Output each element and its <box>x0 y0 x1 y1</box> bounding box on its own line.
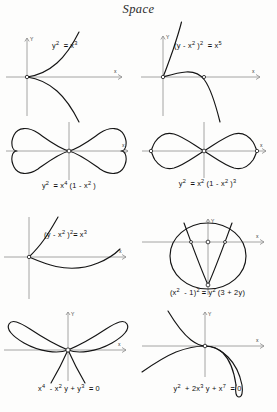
plot-cuspidal-cubic: Y x <box>0 20 138 122</box>
curve-right-tail <box>68 350 85 383</box>
curve-right-petal <box>68 322 128 352</box>
equation-figure-2: (y - x2 )2 = x5 <box>174 40 222 50</box>
curve-lower-branch <box>29 249 120 268</box>
axes: Y x <box>4 311 126 381</box>
plot-figure-eight-quartic: x <box>0 122 138 217</box>
x-axis-label: x <box>114 68 117 74</box>
curve-left-tail <box>51 350 68 383</box>
axes: Y x <box>142 311 264 377</box>
y-axis-label: Y <box>166 34 170 40</box>
equation-figure-7: x4 - x2 y + y3 = 0 <box>0 383 138 393</box>
equation-figure-6: (x2 - 1)2 = y2 (3 + 2y) <box>138 287 277 297</box>
origin-point-icon <box>203 344 207 348</box>
curve-branch-b <box>142 346 236 385</box>
figure-circle-with-node: Y x (x2 - 1)2 = y2 (3 + 2y) <box>138 217 277 309</box>
y-axis-label: Y <box>71 311 75 317</box>
curve-right-arc <box>208 223 232 285</box>
x-intercept-point-icon <box>202 75 205 78</box>
plot-double-loop-sextic: x <box>138 122 277 217</box>
triple-point-icon <box>66 348 70 352</box>
curve-upper-branch <box>27 32 79 77</box>
figure-figure-eight-quartic: x y2 = x4 (1 - x2 ) <box>0 122 138 217</box>
equation-figure-8: y2 + 2x3 y + x7 = 0 <box>138 383 277 393</box>
equation-figure-1: y2 = x3 <box>52 40 77 50</box>
equation-figure-4: y2 = x2 (1 - x2 )3 <box>138 178 277 188</box>
curve-lower-branch <box>27 77 79 122</box>
x-axis-label: x <box>260 142 263 148</box>
node-point-icon <box>202 149 206 153</box>
plot-trifolium-like: Y x <box>0 309 138 412</box>
cusp-point-icon <box>27 255 30 258</box>
figure-double-loop-sextic: x y2 = x2 (1 - x2 )3 <box>138 122 277 217</box>
page-title: Space <box>0 2 277 17</box>
y-axis-label: Y <box>208 311 212 317</box>
equation-figure-3: y2 = x4 (1 - x2 ) <box>0 180 138 190</box>
curve-left-petal <box>8 322 68 352</box>
origin-point-icon <box>206 240 210 244</box>
x-axis-label: x <box>256 233 259 239</box>
equation-figure-5: (y - x2 )2= x3 <box>44 229 87 239</box>
left-intercept-point-icon <box>190 241 193 244</box>
left-cusp-point-icon <box>149 149 152 152</box>
cusp-point-icon <box>25 75 28 78</box>
x-axis-label: x <box>252 68 255 74</box>
x-axis-label: x <box>118 341 121 347</box>
figure-hook-curve: Y x y2 + 2x3 y + x7 = 0 <box>138 309 277 412</box>
curve-left-arc <box>184 223 208 285</box>
y-axis-label: Y <box>30 36 34 42</box>
right-cusp-point-icon <box>255 149 258 152</box>
cusp-point-icon <box>161 75 164 78</box>
figure-grid: Y x y2 = x3 Y x <box>0 20 277 412</box>
x-axis-label: x <box>122 142 125 148</box>
curve-plate-page: Space Y x y2 = x3 <box>0 0 277 412</box>
figure-tacnode-cubic: x (y - x2 )2= x3 <box>0 217 138 309</box>
figure-cuspidal-cubic: Y x y2 = x3 <box>0 20 138 122</box>
x-axis-label: x <box>256 337 259 343</box>
right-intercept-point-icon <box>224 241 227 244</box>
figure-trifolium-like: Y x x4 - x2 y + y3 = 0 <box>0 309 138 412</box>
tacnode-point-icon <box>67 149 71 153</box>
plot-hook-curve: Y x <box>138 309 277 412</box>
plot-ramphoid-cusp: Y x <box>138 20 277 122</box>
curve-lower-branch <box>163 72 220 122</box>
figure-ramphoid-cusp: Y x (y - x2 )2 = x5 <box>138 20 277 122</box>
